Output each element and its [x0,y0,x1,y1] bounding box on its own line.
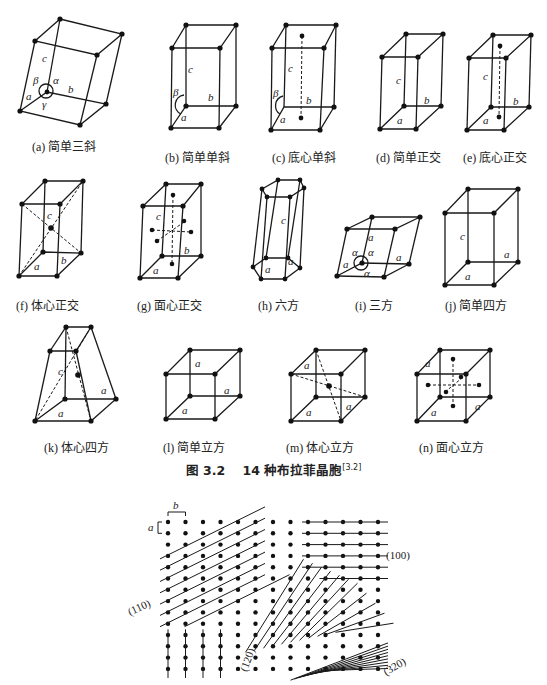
svg-text:b: b [61,254,67,266]
svg-text:c: c [483,70,488,82]
cell-g-face-centered-orthorhombic: c b a [137,181,203,280]
svg-text:a: a [58,407,64,419]
svg-text:b: b [68,83,74,95]
caption-b: (b) 简单单斜 [165,148,230,166]
svg-text:a: a [425,357,431,369]
svg-text:(320): (320) [381,655,408,678]
cell-d-simple-orthorhombic: c b a [377,31,445,131]
cell-b-simple-monoclinic: c β b a [168,22,238,130]
caption-h: (h) 六方 [258,296,299,314]
svg-text:a: a [181,111,187,123]
svg-text:b: b [208,91,214,103]
lattice-planes-diagram: ab(100)(110)(120)(320) [126,499,410,680]
caption-f: (f) 体心正交 [16,296,79,314]
svg-text:a: a [153,264,159,276]
svg-text:a: a [368,231,374,243]
svg-text:a: a [431,406,437,418]
svg-text:b: b [513,95,519,107]
caption-k: (k) 体心四方 [44,438,109,456]
cell-i-trigonal: a α α α a a [334,214,422,279]
label-c: c [42,52,47,64]
caption-i: (i) 三方 [355,296,393,314]
svg-text:β: β [272,87,279,99]
svg-text:a: a [26,90,32,102]
caption-a: (a) 简单三斜 [32,137,96,155]
svg-text:a: a [101,384,107,396]
svg-text:c: c [396,74,401,86]
svg-text:b: b [173,499,179,511]
svg-text:γ: γ [42,98,47,110]
svg-text:a: a [182,404,188,416]
svg-text:a: a [34,260,40,272]
bravais-lattice-figure: .e{stroke:#1a1a1a;stroke-width:1.3;fill:… [0,0,547,685]
cell-a-triclinic: c β α b a γ [17,16,124,127]
cell-h-hexagonal: c a a [251,178,307,282]
svg-text:a: a [265,263,271,275]
svg-text:a: a [195,357,201,369]
svg-text:c: c [47,209,52,221]
figure-caption: 图 3.2 14 种布拉菲晶胞[3.2] [0,460,547,479]
svg-text:a: a [483,114,489,126]
svg-text:α: α [352,246,358,258]
svg-text:α: α [368,246,374,258]
svg-text:a: a [288,255,294,267]
cell-f-body-centered-orthorhombic: c a b [16,178,85,278]
caption-e: (e) 底心正交 [463,148,527,166]
svg-text:b: b [184,244,190,256]
svg-text:a: a [397,114,403,126]
cell-l-simple-cubic: a a a [163,347,242,421]
svg-text:a: a [343,258,349,270]
svg-text:a: a [280,113,286,125]
cell-k-body-centered-tetragonal: c a a [32,324,118,423]
svg-text:(100): (100) [386,549,410,562]
svg-text:β: β [32,74,39,86]
svg-text:c: c [460,230,465,242]
caption-g: (g) 面心正交 [137,296,202,314]
svg-text:a: a [396,251,402,263]
svg-text:a: a [148,521,154,533]
svg-text:α: α [364,267,370,279]
svg-text:α: α [53,74,59,86]
cell-e-base-centered-orthorhombic: c b a [464,32,533,132]
svg-text:a: a [306,406,312,418]
figure-number: 图 3.2 [186,463,226,478]
svg-text:a: a [304,359,310,371]
svg-text:c: c [288,62,293,74]
svg-text:a: a [475,400,481,412]
svg-text:b: b [306,94,312,106]
caption-c: (c) 底心单斜 [272,148,336,166]
svg-text:c: c [156,210,161,222]
svg-text:a: a [346,400,352,412]
svg-text:(110): (110) [126,597,153,619]
svg-text:c: c [188,63,193,75]
svg-text:b: b [424,94,430,106]
cell-j-simple-tetragonal: c a a [442,186,520,287]
figure-reference: [3.2] [342,463,361,472]
svg-text:β: β [172,86,179,98]
cell-m-body-centered-cubic: a a a [288,347,367,423]
cell-c-base-centered-monoclinic: c β b a [268,22,338,132]
svg-text:a: a [465,270,471,282]
svg-text:a: a [224,384,230,396]
caption-m: (m) 体心立方 [286,438,354,456]
caption-j: (j) 简单四方 [445,296,507,314]
caption-l: (l) 简单立方 [163,438,225,456]
caption-d: (d) 简单正交 [376,148,441,166]
svg-text:a: a [504,248,510,260]
svg-text:c: c [281,214,286,226]
caption-n: (n) 面心立方 [419,438,484,456]
svg-text:c: c [58,365,63,377]
cell-n-face-centered-cubic: a a a [414,347,492,423]
figure-title: 14 种布拉菲晶胞 [243,463,343,478]
